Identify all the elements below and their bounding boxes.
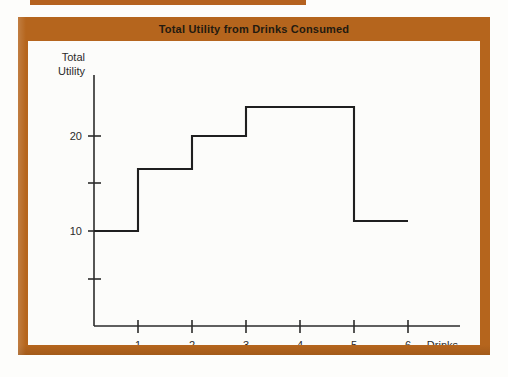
y-axis-title-line1: Total	[62, 51, 85, 63]
x-tick-label-3: 3	[243, 339, 249, 345]
y-tick-label-20: 20	[70, 130, 82, 142]
y-tick-label-10: 10	[70, 225, 82, 237]
page-top-orange-strip	[30, 0, 306, 5]
plot-area: 20 10 Total Utility 1 2 3 4 5 6 Dri	[28, 41, 480, 345]
x-tick-label-2: 2	[189, 339, 195, 345]
chart-title: Total Utility from Drinks Consumed	[18, 17, 490, 41]
x-tick-label-6: 6	[405, 339, 411, 345]
x-tick-label-4: 4	[297, 339, 303, 345]
x-axis-title-line1: Drinks	[427, 339, 459, 345]
figure-page: Total Utility from Drinks Consumed 20 10…	[0, 0, 508, 377]
y-axis-title-line2: Utility	[58, 65, 85, 77]
step-utility-curve	[94, 107, 408, 231]
x-tick-label-5: 5	[351, 339, 357, 345]
plot-svg: 20 10 Total Utility 1 2 3 4 5 6 Dri	[28, 41, 480, 345]
x-tick-label-1: 1	[135, 339, 141, 345]
chart-frame: Total Utility from Drinks Consumed 20 10…	[18, 17, 490, 355]
